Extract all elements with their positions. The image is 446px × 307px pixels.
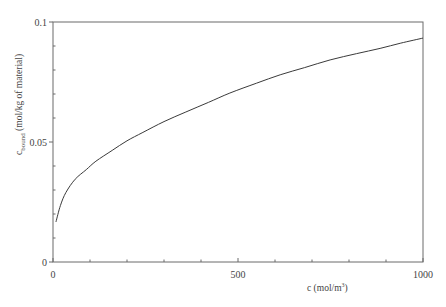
plot-frame [53, 22, 423, 262]
axis-ticks [49, 22, 423, 262]
x-tick-label: 0 [51, 269, 56, 280]
x-axis-label-main: c (mol/m [307, 283, 342, 294]
x-tick-label: 500 [231, 269, 246, 280]
y-tick-label: 0.1 [35, 17, 48, 28]
x-tick-label: 1000 [413, 269, 433, 280]
y-axis-label: cbound (mol/kg of material) [14, 54, 27, 155]
data-line [56, 38, 423, 222]
x-axis-label: c (mol/m3) [307, 282, 348, 294]
plot-border [53, 22, 423, 262]
chart: 0500100000.050.1 c (mol/m3) cbound (mol/… [0, 0, 446, 307]
x-axis-label-tail: ) [345, 283, 348, 294]
tick-labels: 0500100000.050.1 [30, 17, 434, 281]
y-axis-label-sub: bound [19, 133, 27, 151]
y-tick-label: 0.05 [30, 137, 48, 148]
y-axis-label-tail: (mol/kg of material) [14, 54, 25, 133]
y-tick-label: 0 [42, 257, 47, 268]
